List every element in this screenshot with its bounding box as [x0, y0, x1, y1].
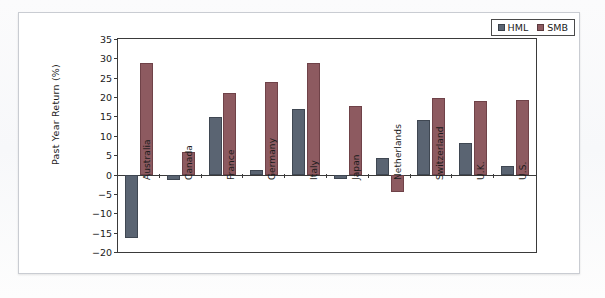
x-axis-label: Switzerland	[435, 126, 445, 180]
bar-hml	[376, 158, 389, 174]
bar-group	[160, 39, 202, 252]
legend-item-hml: HML	[498, 22, 529, 33]
y-tick-label: 35	[74, 34, 118, 45]
x-tick-mark	[284, 174, 285, 178]
legend-swatch-hml	[498, 24, 505, 31]
screenshot-page: Past Year Return (%) 35302520151050−5−10…	[0, 0, 605, 298]
bar-group	[118, 39, 160, 252]
x-axis-label: Australia	[142, 139, 152, 180]
legend-swatch-smb	[537, 24, 544, 31]
y-tick-label: −10	[74, 208, 118, 219]
x-tick-mark	[368, 174, 369, 178]
bar-group	[285, 39, 327, 252]
legend-item-smb: SMB	[537, 22, 568, 33]
bar-group	[243, 39, 285, 252]
bar-group	[369, 39, 411, 252]
x-tick-mark	[451, 174, 452, 178]
x-tick-mark	[159, 174, 160, 178]
legend-label-smb: SMB	[547, 22, 568, 33]
bar-hml	[209, 117, 222, 174]
bar-groups	[118, 39, 536, 252]
x-axis-label: Germany	[267, 137, 277, 179]
y-tick-label: 25	[74, 72, 118, 83]
x-tick-mark	[201, 174, 202, 178]
y-tick-label: −15	[74, 227, 118, 238]
x-axis-label: U.K.	[476, 161, 486, 180]
bar-hml	[459, 143, 472, 175]
bar-hml	[250, 170, 263, 175]
y-tick-label: −20	[74, 247, 118, 258]
bar-smb	[307, 63, 320, 175]
bar-group	[452, 39, 494, 252]
x-axis-label: Japan	[351, 154, 361, 180]
bar-group	[411, 39, 453, 252]
y-tick-label: 20	[74, 92, 118, 103]
bar-group	[202, 39, 244, 252]
bar-group	[327, 39, 369, 252]
y-tick-label: 30	[74, 53, 118, 64]
x-tick-mark	[410, 174, 411, 178]
bar-hml	[167, 175, 180, 181]
y-tick-label: 5	[74, 150, 118, 161]
x-axis-label: Netherlands	[393, 124, 403, 180]
y-tick-label: 10	[74, 130, 118, 141]
bar-hml	[501, 166, 514, 175]
y-axis-title: Past Year Return (%)	[50, 35, 61, 195]
bar-hml	[292, 109, 305, 174]
x-tick-mark	[326, 174, 327, 178]
bar-group	[494, 39, 536, 252]
x-axis-label: U.S.	[518, 161, 528, 179]
bar-hml	[334, 175, 347, 180]
x-tick-mark	[242, 174, 243, 178]
legend-label-hml: HML	[508, 22, 529, 33]
x-axis-label: Canada	[184, 145, 194, 180]
chart-card: Past Year Return (%) 35302520151050−5−10…	[18, 12, 580, 274]
bar-hml	[125, 175, 138, 239]
bar-chart: Past Year Return (%) 35302520151050−5−10…	[19, 13, 581, 275]
x-axis-label: Italy	[309, 160, 319, 180]
plot-area: 35302520151050−5−10−15−20	[117, 38, 537, 253]
bar-hml	[417, 120, 430, 175]
x-axis-label: France	[226, 149, 236, 180]
y-tick-label: −5	[74, 188, 118, 199]
y-tick-label: 0	[74, 169, 118, 180]
y-tick-mark	[114, 252, 118, 253]
y-tick-label: 15	[74, 111, 118, 122]
chart-legend: HML SMB	[491, 19, 575, 36]
x-tick-mark	[493, 174, 494, 178]
